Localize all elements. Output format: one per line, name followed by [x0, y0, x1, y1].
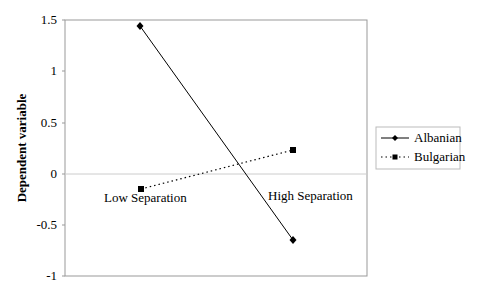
y-tick-label: 1.5 — [41, 12, 57, 27]
y-tick-label: 0.5 — [41, 115, 57, 130]
category-label-low: Low Separation — [104, 190, 187, 205]
y-tick-label: -0.5 — [36, 217, 57, 232]
square-marker-icon — [290, 147, 296, 153]
y-axis-label: Dependent variable — [14, 93, 29, 202]
legend-label-albanian: Albanian — [414, 130, 462, 145]
y-tick-label: -1 — [46, 268, 57, 283]
square-marker-icon — [393, 155, 398, 160]
series-bulgarian — [138, 147, 296, 192]
y-tick-label: 0 — [51, 166, 58, 181]
series-albanian — [137, 22, 297, 244]
interaction-chart: 1.5 1 0.5 0 -0.5 -1 Dependent variable L… — [0, 0, 477, 294]
y-axis: 1.5 1 0.5 0 -0.5 -1 — [36, 12, 65, 283]
legend-label-bulgarian: Bulgarian — [414, 149, 466, 164]
legend: Albanian Bulgarian — [376, 127, 466, 169]
plot-area — [65, 20, 367, 276]
y-tick-label: 1 — [51, 63, 58, 78]
category-label-high: High Separation — [268, 188, 353, 203]
